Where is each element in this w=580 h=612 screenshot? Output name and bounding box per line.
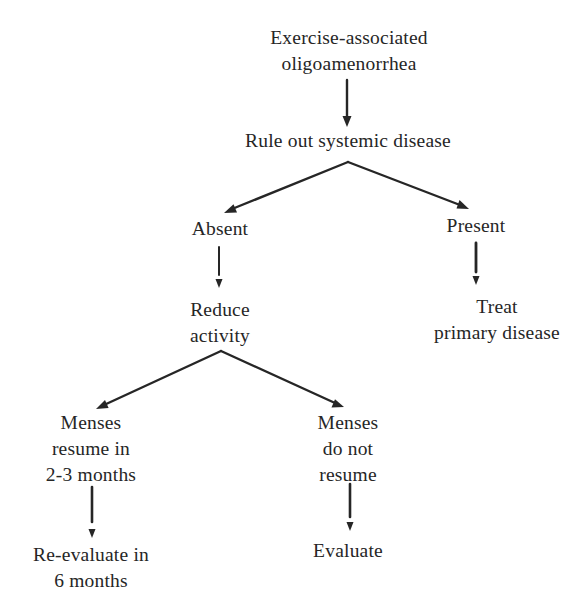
node-text-line: Exercise-associated [270, 25, 428, 51]
node-menses-resume: Menses resume in 2-3 months [46, 410, 136, 488]
node-re-evaluate-6-months: Re-evaluate in 6 months [33, 542, 149, 594]
node-text-line: Absent [192, 216, 248, 242]
node-text-line: resume in [46, 436, 136, 462]
node-text-line: Treat [434, 294, 560, 320]
arrow-menses-resume-to-reevaluate [89, 487, 96, 538]
node-text-line: activity [190, 323, 250, 349]
arrow-rule-out-to-absent [224, 162, 348, 213]
node-absent: Absent [192, 216, 248, 242]
node-menses-do-not-resume: Menses do not resume [318, 410, 379, 488]
node-text-line: 6 months [33, 568, 149, 594]
node-text-line: Re-evaluate in [33, 542, 149, 568]
node-evaluate: Evaluate [313, 538, 383, 564]
node-text-line: primary disease [434, 320, 560, 346]
node-text-line: Menses [318, 410, 379, 436]
node-text-line: do not [318, 436, 379, 462]
node-text-line: Evaluate [313, 538, 383, 564]
node-reduce-activity: Reduce activity [190, 297, 250, 349]
node-text-line: oligoamenorrhea [270, 51, 428, 77]
node-text-line: Menses [46, 410, 136, 436]
arrow-rule-out-to-present [348, 162, 469, 209]
node-treat-primary-disease: Treat primary disease [434, 294, 560, 346]
arrow-start-to-rule-out [343, 80, 352, 127]
arrow-reduce-to-menses-resume [96, 351, 221, 409]
arrow-menses-not-resume-to-evaluate [347, 484, 354, 531]
arrow-absent-to-reduce-activity [216, 247, 223, 288]
arrow-reduce-to-menses-not-resume [221, 351, 344, 408]
node-rule-out-systemic-disease: Rule out systemic disease [245, 128, 451, 154]
node-text-line: 2-3 months [46, 462, 136, 488]
node-text-line: Reduce [190, 297, 250, 323]
node-text-line: resume [318, 462, 379, 488]
arrow-present-to-treat [473, 243, 480, 285]
node-exercise-associated-oligoamenorrhea: Exercise-associated oligoamenorrhea [270, 25, 428, 77]
node-text-line: Present [447, 213, 506, 239]
node-text-line: Rule out systemic disease [245, 128, 451, 154]
node-present: Present [447, 213, 506, 239]
